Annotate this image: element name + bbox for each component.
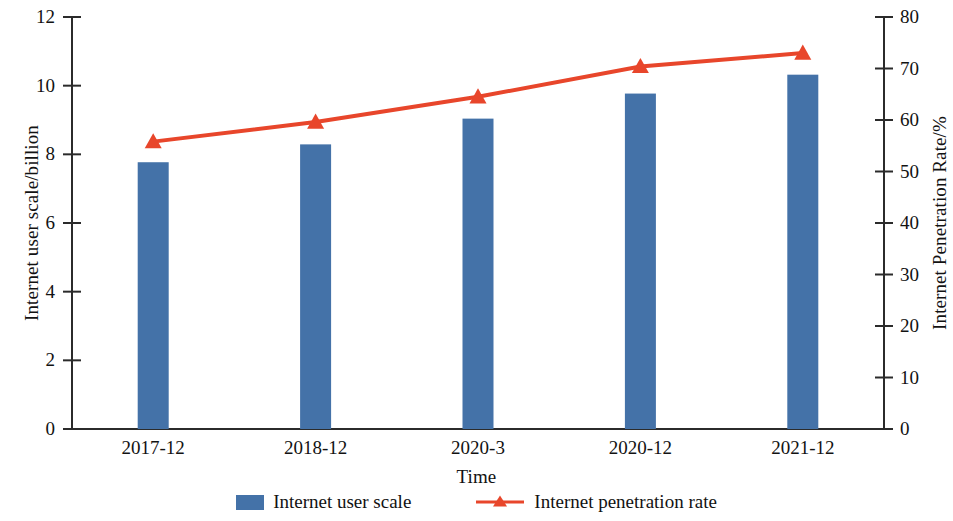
bar-series — [138, 75, 819, 429]
bar-2020-12 — [625, 94, 656, 429]
bar-2021-12 — [787, 75, 818, 429]
bar-2018-12 — [300, 144, 331, 429]
bar-2020-3 — [463, 119, 494, 429]
legend-label-line-series: Internet penetration rate — [534, 491, 717, 513]
bar-2017-12 — [138, 162, 169, 429]
legend-bar-swatch-icon — [236, 495, 264, 510]
legend-item-bar-series[interactable]: Internet user scale — [236, 491, 411, 513]
legend-line-triangle-icon — [475, 494, 525, 510]
chart-legend: Internet user scale Internet penetration… — [0, 491, 953, 513]
chart-figure: Internet user scale/billion Internet Pen… — [0, 0, 953, 521]
plot-area — [0, 0, 953, 521]
legend-item-line-series[interactable]: Internet penetration rate — [475, 491, 717, 513]
legend-label-bar-series: Internet user scale — [273, 491, 411, 513]
